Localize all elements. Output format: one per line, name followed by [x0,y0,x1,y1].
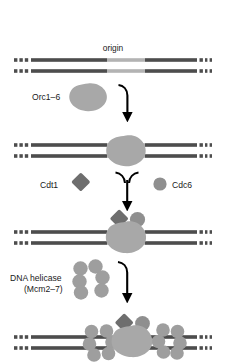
stage-2-orc-bound-origin [14,135,212,166]
dna-left-dashes-stage3 [14,230,28,245]
cdc6-reagent-group: Cdc6 [153,177,192,190]
mcm-hexamer-ring-right-stage4 [152,323,187,360]
dna-right-dashes-stage2 [200,143,213,158]
mcm-subunit [171,325,185,339]
dna-right-dashes-stage4 [200,335,213,350]
mcm-subunit [94,283,108,297]
diagram-canvas: origin [0,0,226,364]
dna-left-dashes-stage1 [14,58,28,73]
stage-4-pre-rc-with-mcm-double-hexamer [14,313,212,362]
stage-1-naked-origin-dna: origin [14,43,212,73]
arrow-stage3-to-stage4 [118,262,127,298]
arrow-shaft-with-left-hook-stage3 [118,262,127,298]
orc-bound-blob-stage2 [106,135,145,166]
dna-left-dashes-stage2 [14,143,28,158]
dna-bottom-strand-stage1 [31,69,197,73]
cdt1-reagent-group: Cdt1 [40,172,90,191]
pathway-diagram-figure: origin [0,0,226,364]
orc-reagent-blob-icon [69,83,107,111]
cdt1-diamond-icon [71,172,90,191]
dna-left-dashes-stage4 [14,335,28,350]
mcm-subunit [102,347,116,361]
arrow-right-hook-stage2 [129,173,139,184]
arrow-stage2-to-stage3 [116,173,139,207]
dna-right-dashes-stage1 [200,58,213,73]
arrow-shaft-with-left-hook [119,85,128,117]
arrow-left-hook-stage2 [116,173,126,184]
origin-segment-top-stage1 [107,58,145,62]
origin-segment-bottom-stage1 [107,69,145,73]
mcm-subunit [87,348,101,362]
orc-reagent-group: Orc1–6 [32,83,107,111]
orc-reagent-label: Orc1–6 [32,92,60,102]
mcm-subunit [157,345,171,359]
helicase-label-line1: DNA helicase [10,273,62,283]
arrow-stage1-to-stage2 [119,85,128,117]
dna-top-strand-stage1 [31,58,197,62]
orc-bound-blob-stage4 [112,325,153,357]
mcm-helicase-reagent-group: DNA helicase (Mcm2–7) [10,259,110,299]
origin-label: origin [103,43,124,53]
mcm-hexamer-ring-icon [72,259,109,299]
stage-3-orc-cdt1-cdc6-bound [14,209,212,253]
orc-bound-blob-stage3 [106,221,146,253]
cdc6-circle-icon [153,177,166,190]
mcm-subunit [95,270,109,284]
mcm-subunit [85,325,99,339]
cdc6-reagent-label: Cdc6 [172,180,192,190]
mcm-subunit [73,261,87,275]
dna-right-dashes-stage3 [200,230,213,245]
mcm-subunit [170,346,184,360]
cdt1-reagent-label: Cdt1 [40,180,58,190]
helicase-label-line2: (Mcm2–7) [24,284,63,294]
mcm-subunit [74,285,88,299]
